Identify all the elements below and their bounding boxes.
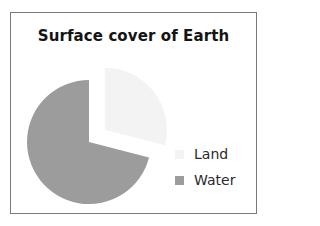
legend-label-water: Water (194, 172, 235, 188)
pie-slice-land (105, 68, 167, 145)
legend-swatch-water (175, 176, 184, 185)
legend-swatch-land (175, 150, 184, 159)
legend: Land Water (175, 141, 235, 193)
legend-item-land: Land (175, 141, 235, 167)
legend-item-water: Water (175, 167, 235, 193)
legend-label-land: Land (194, 146, 228, 162)
